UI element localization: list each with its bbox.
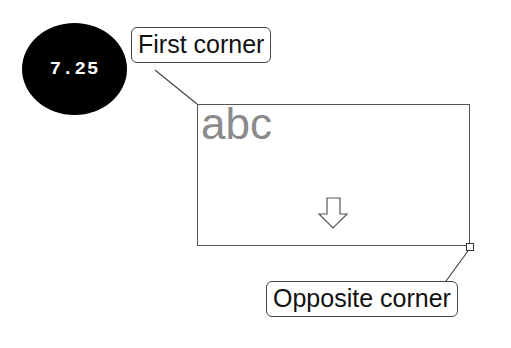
first-corner-label: First corner (138, 30, 264, 58)
first-corner-callout: First corner (131, 27, 271, 63)
rectangle-content-text: abc (201, 102, 272, 146)
step-number-badge: 7.25 (22, 23, 127, 115)
diagram-canvas: 7.25 First corner abc Opposite corner (0, 0, 511, 348)
opposite-corner-callout: Opposite corner (266, 281, 458, 317)
corner-handle[interactable] (466, 243, 474, 251)
opposite-corner-label: Opposite corner (273, 284, 451, 312)
first-corner-leader (155, 70, 197, 104)
step-number: 7.25 (50, 58, 100, 80)
opposite-corner-leader (446, 251, 468, 281)
